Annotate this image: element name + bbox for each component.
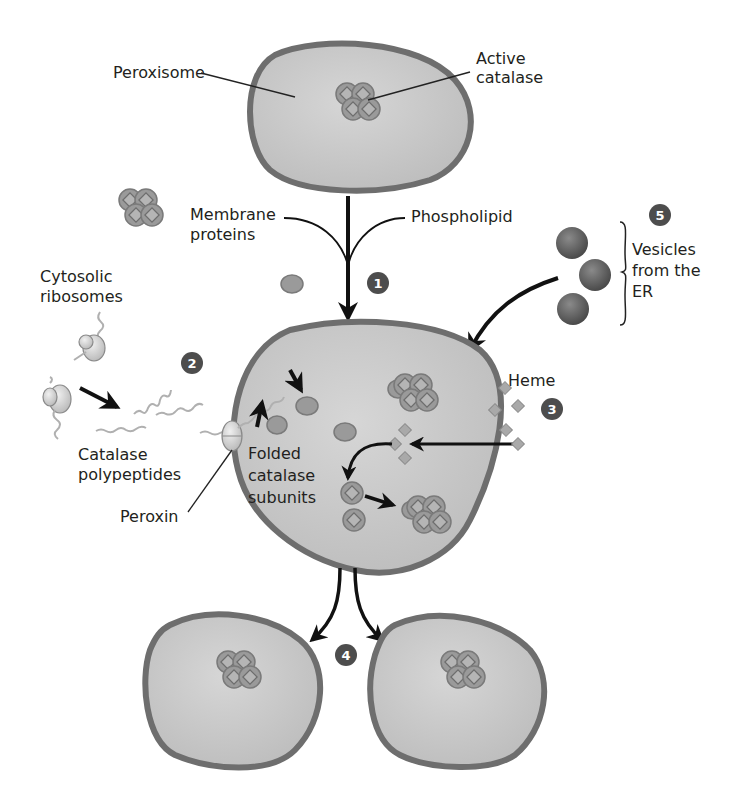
svg-text:5: 5 [655, 208, 664, 223]
svg-text:1: 1 [373, 276, 382, 291]
svg-text:3: 3 [547, 402, 556, 417]
svg-text:4: 4 [341, 648, 350, 663]
ribosome [74, 312, 105, 361]
folded-subunit [267, 416, 287, 434]
label-folded-subunits-2: catalase [248, 466, 315, 485]
label-folded-subunits-3: subunits [248, 488, 316, 507]
label-vesicles-1: Vesicles [632, 240, 696, 259]
step-badge-4: 4 [335, 644, 357, 666]
heme-subunit [341, 482, 363, 504]
label-folded-subunits-1: Folded [248, 444, 301, 463]
mature-peroxisome [250, 44, 471, 191]
peroxisome-biogenesis-diagram: Peroxisome Active catalase Membrane prot… [0, 0, 734, 791]
ribosome [43, 377, 71, 439]
heme-molecule [512, 400, 525, 413]
step-badge-2: 2 [181, 352, 203, 374]
label-peroxisome: Peroxisome [113, 63, 205, 82]
free-catalase-tetramer [119, 189, 163, 226]
label-active-catalase-1: Active [476, 49, 526, 68]
step-badge-1: 1 [367, 272, 389, 294]
label-phospholipid: Phospholipid [411, 207, 513, 226]
label-catalase-polypeptides-2: polypeptides [78, 465, 181, 484]
heme-molecule [512, 438, 525, 451]
label-peroxin: Peroxin [120, 507, 179, 526]
er-vesicle [556, 227, 588, 259]
label-cytosolic-ribosomes-2: ribosomes [40, 287, 123, 306]
er-vesicle [579, 259, 611, 291]
label-vesicles-2: from the [632, 261, 701, 280]
daughter-peroxisome-left [145, 614, 320, 767]
label-heme: Heme [508, 371, 555, 390]
heme-subunit [343, 509, 365, 531]
er-vesicle [557, 293, 589, 325]
label-vesicles-3: ER [632, 282, 653, 301]
active-catalase-tetramer [336, 83, 380, 120]
label-membrane-proteins-2: proteins [190, 225, 255, 244]
label-membrane-proteins-1: Membrane [190, 205, 276, 224]
bracket [620, 222, 626, 325]
membrane-protein-particle [281, 275, 303, 293]
svg-text:2: 2 [187, 356, 196, 371]
catalase-polypeptide-chains [96, 390, 203, 432]
daughter-peroxisome-right [370, 616, 544, 767]
step-badge-3: 3 [541, 398, 563, 420]
label-cytosolic-ribosomes-1: Cytosolic [40, 267, 113, 286]
label-active-catalase-2: catalase [476, 68, 543, 87]
label-catalase-polypeptides-1: Catalase [78, 445, 147, 464]
folded-subunit [296, 397, 318, 415]
folded-subunit [334, 423, 356, 441]
step-badge-5: 5 [649, 204, 671, 226]
